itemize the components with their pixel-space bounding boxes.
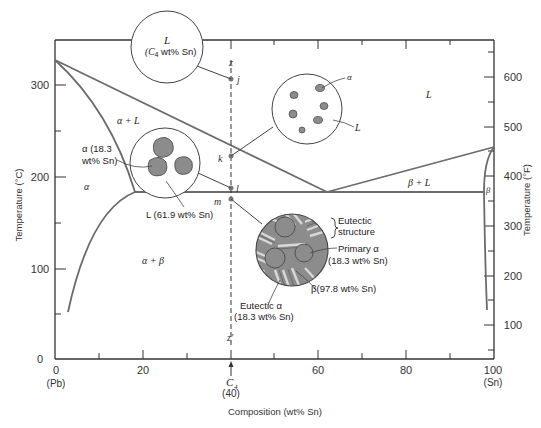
y-left-title: Temperature (°C) [13,169,24,242]
solvus-left [68,192,135,312]
micro-m-primary-alpha-1: Primary α [338,243,379,254]
f-tick-100: 100 [504,319,522,331]
micro-j-composition: (C4 wt% Sn) [145,46,196,58]
c4-marker: C 4 (40) [222,361,240,399]
micro-j-liquid: L [163,34,170,46]
f-tick-400: 400 [504,170,522,182]
sn-label: (Sn) [484,377,503,388]
region-alpha: α [84,181,90,192]
micro-j-comp-post: wt% Sn) [158,46,196,57]
microstructure-j: L (C4 wt% Sn) [131,11,231,83]
region-alpha-beta: α + β [142,255,164,266]
point-z-label: z [228,57,233,68]
point-zprime-label: z' [226,332,234,343]
microstructure-k: α L [231,72,361,156]
x-tick-100: 100 [484,364,502,376]
c4-label: C [226,376,234,388]
point-m-label: m [214,196,221,207]
micro-k-alpha: α [347,72,352,82]
micro-m-beta: β(97.8 wt% Sn) [311,283,376,294]
y-tick-100: 100 [31,263,49,275]
x-tick-60: 60 [312,364,324,376]
micro-m-eutectic-structure-1: Eutectic [338,215,372,226]
x-tick-20: 20 [137,364,149,376]
y-tick-300: 300 [31,79,49,91]
micro-m-eutectic-alpha-2: (18.3 wt% Sn) [234,311,294,322]
micro-m-eutectic-alpha-1: Eutectic α [240,300,282,311]
y-right-title: Temperature (°F) [521,164,532,236]
f-tick-200: 200 [504,270,522,282]
micro-l-liquid: L (61.9 wt% Sn) [146,209,213,220]
x-axis-title: Composition (wt% Sn) [228,406,322,417]
micro-l-alpha-line1: α (18.3 [82,143,112,154]
path-points: j k l m [214,74,240,207]
region-alpha-liquid: α + L [117,115,140,126]
c4-value: (40) [222,388,240,399]
f-tick-300: 300 [504,220,522,232]
phase-diagram: 0 100 200 300 100 200 300 400 500 600 0 … [0,0,541,428]
point-k-label: k [218,153,223,164]
micro-k-liquid: L [354,122,361,133]
micro-m-eutectic-structure-2: structure [338,226,375,237]
x-tick-80: 80 [400,364,412,376]
region-beta: β [485,185,491,195]
micro-l-alpha-line2: wt% Sn) [81,155,117,166]
f-tick-600: 600 [504,71,522,83]
microstructure-l: α (18.3 wt% Sn) L (61.9 wt% Sn) [81,128,231,220]
y-right-ticks [484,52,494,350]
y-tick-200: 200 [31,171,49,183]
y-tick-0: 0 [37,353,43,365]
microstructure-m: Eutectic structure Primary α (18.3 wt% S… [231,199,388,322]
point-j-label: j [235,74,240,85]
micro-m-primary-alpha-2: (18.3 wt% Sn) [328,255,388,266]
y-left-ticks [55,85,66,314]
region-beta-liquid: β + L [407,177,431,188]
region-liquid: L [425,89,432,100]
point-l-label: l [236,183,239,194]
f-tick-500: 500 [504,121,522,133]
x-tick-0: 0 [53,364,59,376]
pb-label: (Pb) [47,378,66,389]
solvus-right [484,192,487,310]
